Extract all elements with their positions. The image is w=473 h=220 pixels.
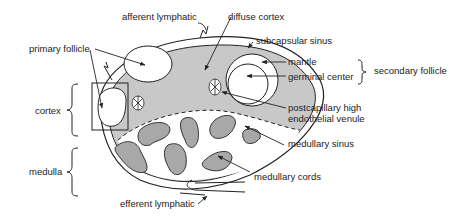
label-diffuse-cortex: diffuse cortex — [228, 11, 285, 22]
cortex-brace — [67, 84, 78, 136]
label-medulla: medulla — [29, 166, 63, 177]
label-postcapillary-line1: postcapillary high — [288, 102, 361, 113]
label-secondary-follicle: secondary follicle — [374, 65, 447, 76]
label-subcapsular-sinus: subcapsular sinus — [256, 35, 332, 46]
label-germinal-center: germinal center — [288, 71, 353, 82]
label-efferent-lymphatic: efferent lymphatic — [120, 198, 195, 209]
lymph-node-diagram: afferent lymphatic diffuse cortex primar… — [0, 0, 473, 220]
medulla-brace — [67, 148, 78, 196]
label-cortex: cortex — [35, 105, 61, 116]
label-mantle: mantle — [288, 56, 317, 67]
label-afferent-lymphatic: afferent lymphatic — [122, 11, 197, 22]
label-medullary-cords: medullary cords — [254, 171, 321, 182]
label-medullary-sinus: medullary sinus — [288, 138, 354, 149]
primary-follicle — [124, 46, 172, 82]
secondary-follicle-brace — [358, 60, 366, 84]
label-postcapillary-line2: endothelial venule — [288, 113, 365, 124]
label-primary-follicle: primary follicle — [29, 43, 90, 54]
